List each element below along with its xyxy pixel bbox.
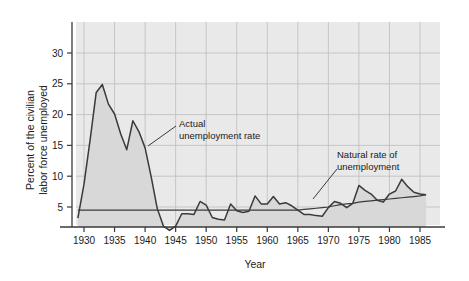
y-axis-title: Percent of the civilian labor force unem…: [24, 85, 49, 195]
x-tick-label: 1955: [226, 235, 249, 246]
x-tick-label: 1975: [348, 235, 371, 246]
x-axis-title: Year: [244, 258, 266, 270]
x-tick-label: 1980: [378, 235, 401, 246]
annotation-natural-line1: Natural rate of: [337, 149, 398, 160]
x-tick-label: 1940: [134, 235, 157, 246]
y-axis-title-line1: Percent of the civilian: [24, 90, 36, 190]
y-tick-label: 10: [52, 171, 64, 182]
y-tick-label: 15: [52, 140, 64, 151]
y-tick-label: 20: [52, 109, 64, 120]
y-tick-label: 5: [57, 202, 63, 213]
y-tick-label: 30: [52, 48, 64, 59]
annotation-natural-line2: unemployment: [337, 161, 400, 172]
annotation-actual-line2: unemployment rate: [179, 130, 260, 141]
y-tick-label: 25: [52, 78, 64, 89]
unemployment-chart-svg: 51015202530 1930193519401945195019551960…: [0, 0, 469, 281]
annotation-actual-line1: Actual: [179, 118, 205, 129]
x-tick-label: 1950: [195, 235, 218, 246]
x-tick-label: 1960: [256, 235, 279, 246]
x-tick-label: 1970: [317, 235, 340, 246]
x-tick-label: 1965: [287, 235, 310, 246]
x-tick-label: 1945: [165, 235, 188, 246]
y-axis-title-line2: labor force unemployed: [37, 85, 49, 195]
x-tick-label: 1930: [73, 235, 96, 246]
chart-figure: 51015202530 1930193519401945195019551960…: [0, 0, 469, 281]
x-tick-label: 1985: [409, 235, 432, 246]
x-tick-label: 1935: [103, 235, 126, 246]
